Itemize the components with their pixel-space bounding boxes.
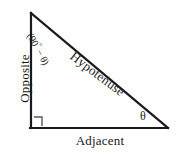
theta-angle-label: θ <box>140 110 146 122</box>
trigonometry-triangle-diagram: Opposite Adjacent Hypotenuse (90° − θ) θ <box>0 0 176 155</box>
right-angle-marker-icon <box>34 117 42 126</box>
opposite-side-label: Opposite <box>18 45 31 113</box>
adjacent-side-label: Adjacent <box>38 134 162 147</box>
